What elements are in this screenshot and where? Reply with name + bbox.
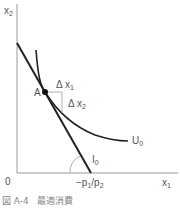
indifference-curve xyxy=(36,50,128,141)
x-axis-label: x1 xyxy=(162,178,171,189)
slope-label: −p1/p2 xyxy=(76,178,104,189)
delta-x2-label: Δ x2 xyxy=(68,99,86,110)
budget-line-label: I0 xyxy=(92,155,99,166)
angle-arc xyxy=(70,156,80,173)
delta-x1-label: Δ x1 xyxy=(56,80,74,91)
y-axis-label: x2 xyxy=(4,6,13,17)
figure-caption: 図 A-4 最適消費 xyxy=(2,194,73,207)
point-a-label: A xyxy=(34,88,41,98)
diagram-canvas xyxy=(0,0,180,208)
point-a-marker xyxy=(42,89,48,95)
origin-label: 0 xyxy=(5,177,11,187)
indifference-curve-label: U0 xyxy=(132,136,143,147)
